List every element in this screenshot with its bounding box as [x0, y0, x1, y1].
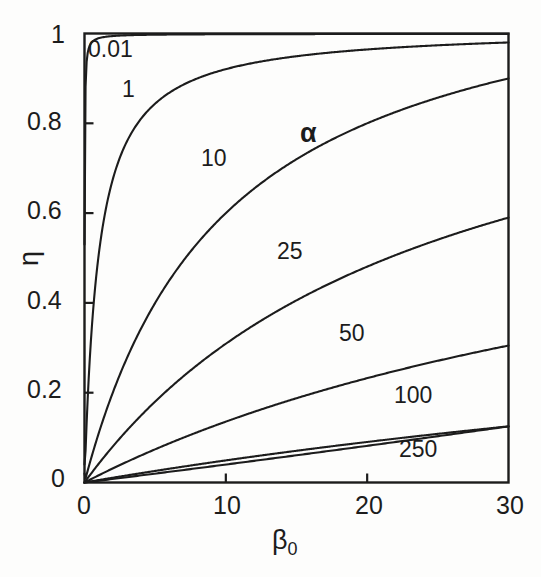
curve-label-0-01: 0.01: [88, 36, 133, 63]
xtick-label-20: 20: [355, 491, 383, 520]
xtick-label-0: 0: [77, 491, 91, 520]
curve-label-100: 100: [394, 382, 432, 409]
x-axis-title: β0: [272, 525, 298, 560]
ytick-label-0-8: 0.8: [27, 107, 62, 136]
curve-alpha-50: [85, 346, 509, 483]
xtick-label-30: 30: [496, 491, 524, 520]
ytick-label-0-6: 0.6: [27, 196, 62, 225]
curve-alpha-250: [85, 426, 509, 482]
chart-figure: 1 0.8 0.6 0.4 0.2 0 0 10 20 30 η β0 0.01…: [0, 0, 541, 577]
curve-label-25: 25: [277, 238, 303, 265]
ytick-label-0-2: 0.2: [27, 375, 62, 404]
curve-label-10: 10: [201, 145, 227, 172]
tick-marks: [85, 123, 368, 482]
legend-symbol-alpha: α: [300, 118, 317, 149]
ytick-label-1: 1: [51, 20, 65, 49]
curve-label-1: 1: [122, 76, 135, 103]
x-axis-title-subscript: 0: [288, 539, 298, 559]
curve-label-250: 250: [399, 436, 437, 463]
curve-label-50: 50: [339, 320, 365, 347]
curve-alpha-0.01: [85, 34, 509, 245]
curve-alpha-10: [85, 78, 509, 478]
ytick-label-0: 0: [51, 464, 65, 493]
y-axis-title: η: [14, 251, 45, 266]
ytick-label-0-4: 0.4: [27, 286, 62, 315]
xtick-label-10: 10: [213, 491, 241, 520]
x-axis-title-main: β: [272, 525, 288, 555]
